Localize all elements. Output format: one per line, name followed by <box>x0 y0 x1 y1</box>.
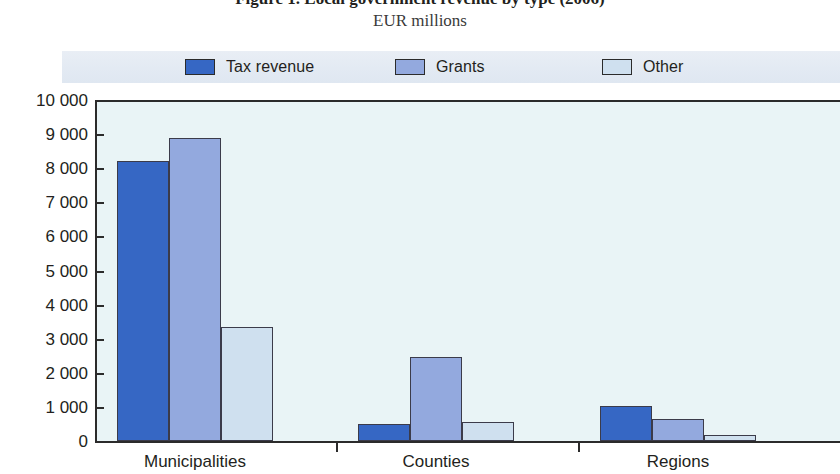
figure-subtitle: EUR millions <box>0 10 840 32</box>
x-axis-category-label: Counties <box>402 452 469 472</box>
chart-legend: Tax revenue Grants Other <box>62 51 840 83</box>
bar <box>169 138 221 441</box>
legend-item-grants[interactable]: Grants <box>395 58 485 76</box>
bars-layer <box>95 100 840 441</box>
y-axis-tick-label: 8 000 <box>0 160 88 177</box>
y-axis-tick-label: 4 000 <box>0 296 88 313</box>
bar <box>704 435 756 441</box>
bar <box>410 357 462 441</box>
x-axis-category-label: Regions <box>647 452 709 472</box>
legend-label-other: Other <box>643 58 684 76</box>
bar <box>221 327 273 441</box>
legend-label-grants: Grants <box>436 58 485 76</box>
y-axis-tick <box>95 134 104 136</box>
y-axis-tick-label: 10 000 <box>0 92 88 109</box>
legend-swatch-grants <box>395 59 425 75</box>
y-axis-tick-label: 7 000 <box>0 194 88 211</box>
x-axis-category-label: Municipalities <box>144 452 246 472</box>
legend-item-other[interactable]: Other <box>602 58 684 76</box>
legend-item-tax-revenue[interactable]: Tax revenue <box>185 58 314 76</box>
x-axis-tick <box>578 443 580 452</box>
chart-figure: Figure 1. Local government revenue by ty… <box>0 0 840 474</box>
legend-swatch-tax-revenue <box>185 59 215 75</box>
bar <box>358 424 410 441</box>
y-axis-tick-label: 5 000 <box>0 262 88 279</box>
x-axis-tick <box>336 443 338 452</box>
y-axis-tick-label: 3 000 <box>0 330 88 347</box>
x-axis-labels: MunicipalitiesCountiesRegions <box>95 452 840 474</box>
legend-swatch-other <box>602 59 632 75</box>
y-axis-tick <box>95 168 104 170</box>
bar <box>652 419 704 442</box>
y-axis-tick <box>95 236 104 238</box>
figure-caption-clip: Figure 1. Local government revenue by ty… <box>0 0 840 10</box>
y-axis-tick-label: 0 <box>0 433 88 450</box>
y-axis-tick <box>95 339 104 341</box>
figure-caption: Figure 1. Local government revenue by ty… <box>0 0 840 10</box>
y-axis-tick <box>95 305 104 307</box>
y-axis-tick <box>95 202 104 204</box>
bar <box>462 422 514 441</box>
y-axis-tick-label: 1 000 <box>0 398 88 415</box>
y-axis-tick <box>95 271 104 273</box>
y-axis-labels: 10 0009 0008 0007 0006 0005 0004 0003 00… <box>0 100 88 441</box>
y-axis-tick-label: 9 000 <box>0 126 88 143</box>
bar <box>117 161 169 441</box>
y-axis-tick-label: 2 000 <box>0 364 88 381</box>
bar <box>600 406 652 441</box>
y-axis-tick <box>95 407 104 409</box>
legend-label-tax-revenue: Tax revenue <box>226 58 314 76</box>
y-axis-tick <box>95 373 104 375</box>
y-axis-tick-label: 6 000 <box>0 228 88 245</box>
